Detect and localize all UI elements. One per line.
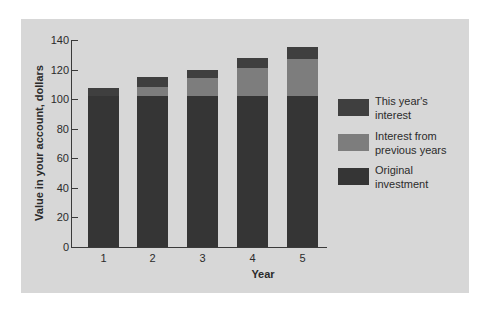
bar-segment	[287, 96, 318, 247]
bar-segment	[137, 96, 168, 247]
legend-label-line: Interest from	[375, 130, 475, 144]
x-tick-label: 2	[149, 252, 155, 264]
bar-segment	[187, 70, 218, 79]
y-tick-mark	[71, 158, 78, 159]
legend-swatch	[338, 99, 369, 116]
bar-segment	[88, 88, 119, 96]
y-axis-label: Value in your account, dollars	[33, 65, 45, 221]
y-tick-label: 60	[57, 152, 69, 164]
y-tick-label: 20	[57, 211, 69, 223]
y-tick-label: 100	[51, 93, 69, 105]
legend-label-line: Original	[375, 164, 475, 178]
y-tick-label: 0	[63, 241, 69, 253]
y-tick-mark	[71, 40, 78, 41]
bar-segment	[237, 96, 268, 247]
y-axis-line	[71, 40, 72, 247]
bar-segment	[287, 59, 318, 96]
y-tick-label: 120	[51, 64, 69, 76]
x-axis-label: Year	[251, 268, 274, 280]
bar-segment	[287, 47, 318, 59]
y-tick-mark	[71, 188, 78, 189]
y-tick-label: 80	[57, 123, 69, 135]
bar-segment	[88, 96, 119, 247]
y-tick-mark	[71, 247, 78, 248]
x-tick-label: 3	[199, 252, 205, 264]
legend-swatch	[338, 134, 369, 151]
y-tick-label: 40	[57, 182, 69, 194]
legend-label: This year's interest	[375, 95, 475, 122]
legend-label-line: previous years	[375, 144, 475, 158]
y-tick-mark	[71, 70, 78, 71]
x-tick-label: 1	[100, 252, 106, 264]
y-tick-mark	[71, 99, 78, 100]
legend-label-line: This year's	[375, 95, 475, 109]
y-tick-mark	[71, 129, 78, 130]
legend-label: Original investment	[375, 164, 475, 191]
legend-label-line: investment	[375, 178, 475, 192]
y-tick-label: 140	[51, 34, 69, 46]
legend-label-line: interest	[375, 109, 475, 123]
y-tick-mark	[71, 217, 78, 218]
x-tick-label: 4	[249, 252, 255, 264]
legend-label: Interest from previous years	[375, 130, 475, 157]
legend-swatch	[338, 168, 369, 185]
x-tick-label: 5	[299, 252, 305, 264]
bar-segment	[137, 87, 168, 96]
bar-segment	[237, 68, 268, 96]
bar-segment	[237, 58, 268, 68]
bar-segment	[187, 96, 218, 247]
bar-segment	[137, 77, 168, 87]
bar-segment	[187, 78, 218, 96]
x-axis-line	[71, 247, 327, 248]
